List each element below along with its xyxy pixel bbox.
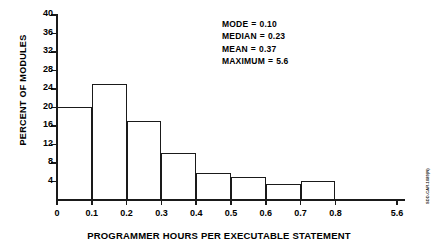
y-tick-label: 40 bbox=[43, 8, 53, 19]
x-tick-label: 0.3 bbox=[155, 208, 168, 219]
x-axis-title: PROGRAMMER HOURS PER EXECUTABLE STATEMEN… bbox=[0, 230, 438, 241]
figure-credit-code: SDD-CAR-1089(N) bbox=[424, 158, 432, 204]
y-tick-label: 8 bbox=[48, 156, 53, 167]
x-tick-label: 0.2 bbox=[120, 208, 133, 219]
statistics-annotation: MODE=0.10MEDIAN=0.23MEAN=0.37MAXIMUM=5.6 bbox=[222, 18, 289, 68]
histogram-bar bbox=[196, 173, 231, 200]
statistic-equals-sign: = bbox=[248, 19, 259, 29]
x-tick-label: 5.6 bbox=[391, 208, 404, 219]
y-tick-label: 12 bbox=[43, 138, 53, 149]
statistic-label: MEDIAN bbox=[222, 31, 257, 41]
statistic-row: MEAN=0.37 bbox=[222, 43, 289, 55]
histogram-bar bbox=[301, 181, 336, 201]
statistic-label: MODE bbox=[222, 19, 248, 29]
histogram-figure: PERCENT OF MODULES 481216202428323640 00… bbox=[0, 0, 438, 250]
x-tick-label: 0.5 bbox=[225, 208, 238, 219]
x-tick-label: 0.1 bbox=[86, 208, 99, 219]
y-tick-label: 28 bbox=[43, 64, 53, 75]
histogram-bar bbox=[231, 177, 266, 200]
x-tick-mark bbox=[396, 199, 398, 205]
histogram-bar bbox=[161, 153, 196, 200]
statistic-equals-sign: = bbox=[257, 31, 268, 41]
statistic-equals-sign: = bbox=[265, 56, 276, 66]
statistic-value: 0.10 bbox=[259, 19, 276, 29]
statistic-row: MODE=0.10 bbox=[222, 18, 289, 30]
histogram-bar bbox=[92, 84, 127, 200]
x-tick-label: 0.8 bbox=[329, 208, 342, 219]
histogram-bar bbox=[57, 107, 92, 201]
y-axis-title: PERCENT OF MODULES bbox=[16, 0, 30, 190]
statistic-label: MAXIMUM bbox=[222, 56, 265, 66]
histogram-bar bbox=[127, 121, 162, 200]
histogram-bar bbox=[266, 184, 301, 200]
y-tick-label: 4 bbox=[48, 175, 53, 186]
statistic-value: 0.23 bbox=[268, 31, 285, 41]
statistic-row: MEDIAN=0.23 bbox=[222, 30, 289, 42]
x-tick-label: 0.4 bbox=[190, 208, 203, 219]
statistic-equals-sign: = bbox=[248, 44, 259, 54]
x-tick-label: 0 bbox=[54, 208, 59, 219]
y-tick-label: 20 bbox=[43, 101, 53, 112]
x-tick-label: 0.7 bbox=[294, 208, 307, 219]
statistic-value: 5.6 bbox=[276, 56, 288, 66]
statistic-row: MAXIMUM=5.6 bbox=[222, 55, 289, 67]
y-tick-label: 36 bbox=[43, 27, 53, 38]
x-tick-label: 0.6 bbox=[260, 208, 273, 219]
y-tick-label: 24 bbox=[43, 82, 53, 93]
statistic-label: MEAN bbox=[222, 44, 248, 54]
y-tick-label: 16 bbox=[43, 119, 53, 130]
statistic-value: 0.37 bbox=[259, 44, 276, 54]
y-tick-label: 32 bbox=[43, 45, 53, 56]
